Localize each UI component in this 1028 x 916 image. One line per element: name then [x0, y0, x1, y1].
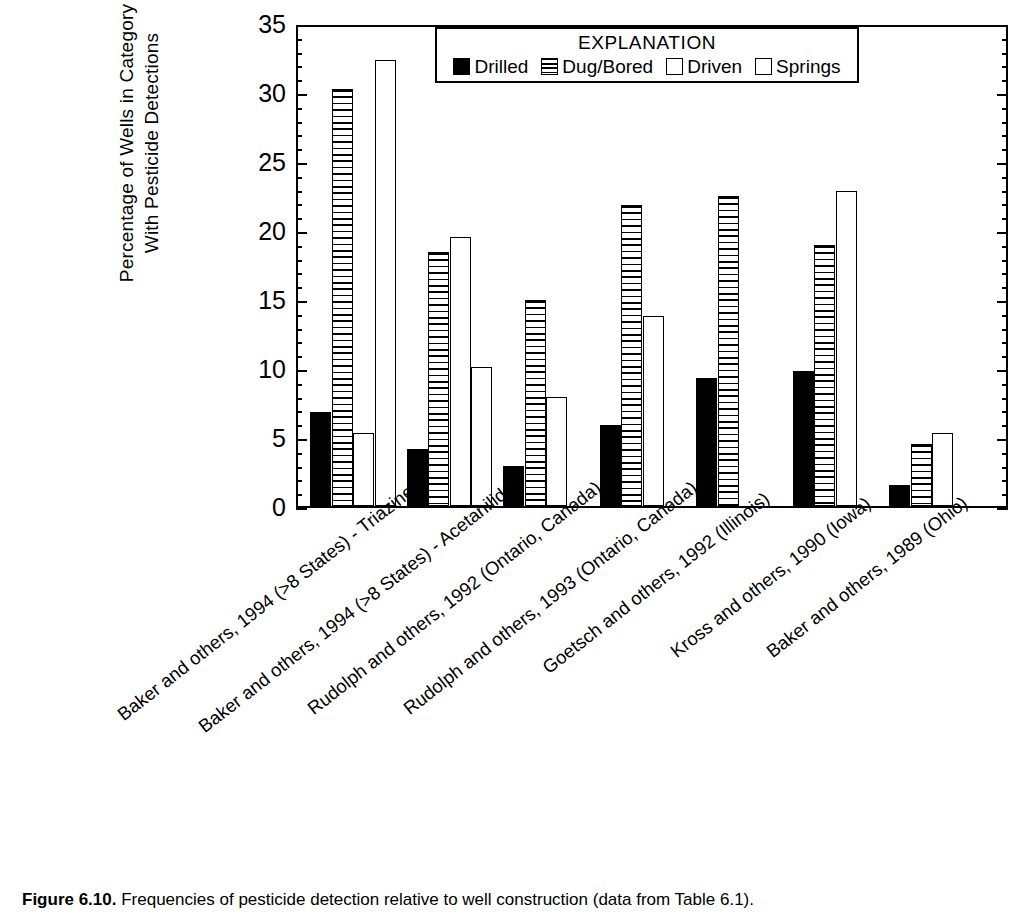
y-axis-major-tick: [296, 232, 307, 234]
bar-drilled: [889, 485, 910, 506]
bar-springs: [643, 316, 664, 506]
legend-entry-driven: Driven: [666, 57, 742, 76]
y-axis-minor-tick-right: [1002, 177, 1008, 179]
legend-entry-drilled: Drilled: [453, 57, 528, 76]
y-axis-title: Percentage of Wells in Category With Pes…: [114, 0, 164, 358]
y-axis-major-tick-right: [997, 94, 1008, 96]
y-axis-major-tick: [296, 370, 307, 372]
x-axis-tick-label: Baker and others, 1989 (Ohio): [763, 493, 971, 662]
horizontal-striped-square-icon: [541, 58, 558, 75]
y-axis-minor-tick-right: [1002, 494, 1008, 496]
y-axis-minor-tick: [296, 149, 302, 151]
legend-title: EXPLANATION: [437, 33, 857, 53]
bar-springs: [471, 367, 492, 506]
y-axis-tick-label: 25: [234, 150, 286, 175]
legend-entry-label: Drilled: [474, 57, 528, 76]
y-axis-minor-tick-right: [1002, 467, 1008, 469]
y-axis-minor-tick: [296, 122, 302, 124]
y-axis-minor-tick: [296, 384, 302, 386]
y-axis-minor-tick: [296, 411, 302, 413]
legend-entry-dug-bored: Dug/Bored: [541, 57, 653, 76]
y-axis-minor-tick-right: [1002, 315, 1008, 317]
y-axis-major-tick: [296, 94, 307, 96]
y-axis-minor-tick-right: [1002, 218, 1008, 220]
y-axis-minor-tick-right: [1002, 273, 1008, 275]
y-axis-minor-tick: [296, 204, 302, 206]
bar-driven: [353, 433, 374, 506]
y-axis-minor-tick: [296, 398, 302, 400]
y-axis-minor-tick-right: [1002, 398, 1008, 400]
y-axis-major-tick-right: [997, 301, 1008, 303]
y-axis-minor-tick-right: [1002, 425, 1008, 427]
y-axis-minor-tick-right: [1002, 149, 1008, 151]
bar-dugbored: [332, 89, 353, 506]
y-axis-minor-tick: [296, 342, 302, 344]
figure-caption-text: Frequencies of pesticide detection relat…: [116, 890, 754, 909]
y-axis-tick-label: 10: [234, 357, 286, 382]
y-axis-minor-tick: [296, 218, 302, 220]
legend-entry-label: Dug/Bored: [562, 57, 653, 76]
y-axis-minor-tick: [296, 329, 302, 331]
y-axis-minor-tick-right: [1002, 80, 1008, 82]
y-axis-minor-tick-right: [1002, 122, 1008, 124]
bar-dugbored: [428, 252, 449, 506]
y-axis-minor-tick: [296, 108, 302, 110]
bar-drilled: [310, 412, 331, 506]
y-axis-minor-tick: [296, 453, 302, 455]
y-axis-minor-tick-right: [1002, 246, 1008, 248]
figure-caption-label: Figure 6.10.: [22, 890, 116, 909]
y-axis-minor-tick: [296, 273, 302, 275]
y-axis-minor-tick-right: [1002, 342, 1008, 344]
y-axis-major-tick: [296, 25, 307, 27]
bar-dugbored: [718, 196, 739, 507]
y-axis-minor-tick: [296, 467, 302, 469]
y-axis-minor-tick-right: [1002, 260, 1008, 262]
x-axis-tick-label: Kross and others, 1990 (Iowa): [667, 493, 875, 661]
figure-container: 05101520253035 Percentage of Wells in Ca…: [0, 0, 1028, 916]
bar-springs: [375, 60, 396, 506]
legend: EXPLANATION DrilledDug/BoredDrivenSpring…: [435, 27, 859, 83]
y-axis-major-tick-right: [997, 508, 1008, 510]
y-axis-minor-tick-right: [1002, 480, 1008, 482]
empty-white-square-icon: [666, 58, 683, 75]
y-axis-major-tick: [296, 439, 307, 441]
figure-caption: Figure 6.10. Frequencies of pesticide de…: [22, 889, 1012, 910]
y-axis-minor-tick-right: [1002, 191, 1008, 193]
legend-entry-label: Driven: [687, 57, 742, 76]
y-axis-tick-label: 15: [234, 288, 286, 313]
y-axis-minor-tick-right: [1002, 66, 1008, 68]
y-axis-minor-tick: [296, 53, 302, 55]
plot-area: [296, 25, 1008, 508]
y-axis-major-tick-right: [997, 25, 1008, 27]
y-axis-minor-tick: [296, 177, 302, 179]
y-axis-minor-tick-right: [1002, 453, 1008, 455]
y-axis-minor-tick-right: [1002, 356, 1008, 358]
y-axis-tick-label: 30: [234, 81, 286, 106]
y-axis-minor-tick: [296, 260, 302, 262]
y-axis-minor-tick-right: [1002, 329, 1008, 331]
bar-dugbored: [911, 444, 932, 506]
legend-entries: DrilledDug/BoredDrivenSprings: [437, 57, 857, 76]
y-axis-minor-tick-right: [1002, 384, 1008, 386]
y-axis-minor-tick: [296, 287, 302, 289]
bar-springs: [836, 191, 857, 506]
y-axis-minor-tick-right: [1002, 108, 1008, 110]
y-axis-minor-tick-right: [1002, 411, 1008, 413]
y-axis-minor-tick-right: [1002, 53, 1008, 55]
bar-dugbored: [621, 205, 642, 506]
y-axis-minor-tick: [296, 39, 302, 41]
y-axis-tick-label: 35: [234, 12, 286, 37]
legend-entry-springs: Springs: [755, 57, 840, 76]
y-axis-minor-tick: [296, 494, 302, 496]
bar-drilled: [696, 378, 717, 506]
y-axis-major-tick-right: [997, 370, 1008, 372]
y-axis-minor-tick: [296, 191, 302, 193]
y-axis-minor-tick-right: [1002, 287, 1008, 289]
y-axis-major-tick-right: [997, 163, 1008, 165]
y-axis-minor-tick: [296, 480, 302, 482]
empty-white-square-icon: [755, 58, 772, 75]
y-axis-major-tick: [296, 301, 307, 303]
y-axis-minor-tick: [296, 66, 302, 68]
bar-dugbored: [814, 245, 835, 506]
y-axis-tick-label: 0: [234, 495, 286, 520]
